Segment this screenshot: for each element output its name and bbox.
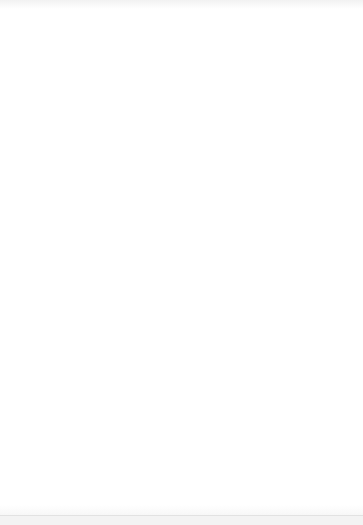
driveway-sketch bbox=[18, 465, 65, 500]
sight-line-no1 bbox=[92, 20, 316, 492]
main-building-label-line-4: (MAIN BUILDING) bbox=[64, 266, 114, 284]
label-pond-1-note: (MORE TREES AREA) bbox=[289, 181, 347, 191]
scan-edge-bottom bbox=[0, 515, 363, 525]
label-no1-measure-suffix: two bbox=[328, 50, 346, 60]
sight-line-no1-arrowhead bbox=[305, 24, 316, 42]
sight-line-no2 bbox=[20, 183, 330, 312]
main-building-east-wall bbox=[116, 198, 148, 262]
compass-north-letter: N bbox=[275, 446, 309, 489]
label-our-house: OUR HOUSE bbox=[227, 240, 268, 255]
sight-line-no2-shaft bbox=[20, 186, 330, 312]
sight-line-no3-arrowhead bbox=[101, 24, 116, 46]
bottom-gate-hook bbox=[92, 499, 102, 510]
sight-line-no1-shaft bbox=[92, 20, 316, 492]
label-coal-store: COAL bbox=[149, 294, 160, 312]
bottom-gate-rail bbox=[96, 497, 140, 510]
pond-2-shadow bbox=[97, 126, 106, 127]
label-no3-measure: 17' - we bbox=[118, 31, 158, 43]
label-no3: No 3 bbox=[120, 15, 146, 28]
label-pond-2: POND 2 bbox=[86, 101, 119, 112]
pond-2-shape bbox=[90, 113, 117, 125]
main-building-label-line-3: FLAT bbox=[68, 254, 84, 264]
annotation-pipe-note: PIPE FROM DRAIN TO POND 2 bbox=[151, 135, 244, 147]
label-pond-1: POND 1 bbox=[259, 180, 292, 191]
label-no2: No 2 bbox=[15, 192, 41, 205]
label-no2-measure: 19' - we bbox=[15, 205, 53, 217]
pond-1-shape bbox=[223, 190, 260, 205]
label-no1-measure: 27' bbox=[318, 38, 334, 49]
label-no1: No 1 bbox=[320, 21, 346, 34]
